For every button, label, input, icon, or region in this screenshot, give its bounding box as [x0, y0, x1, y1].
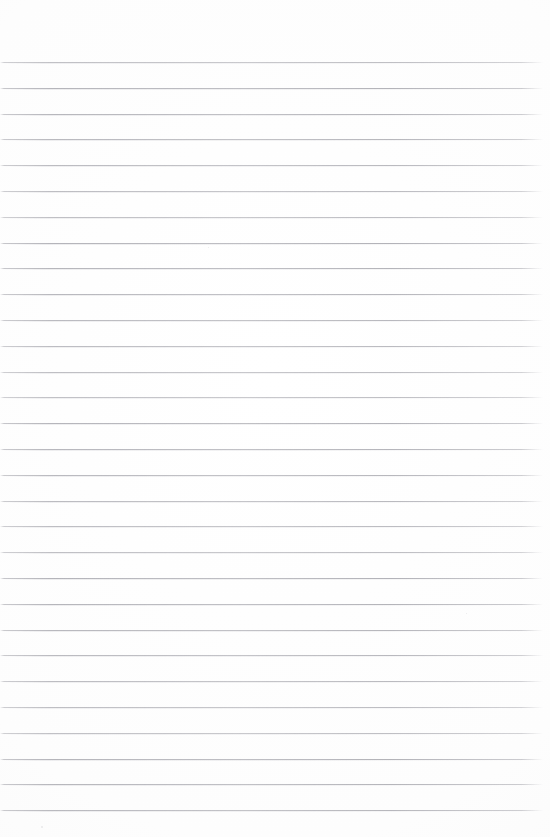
writing-area[interactable]	[0, 62, 543, 812]
lined-paper-page	[0, 0, 550, 837]
